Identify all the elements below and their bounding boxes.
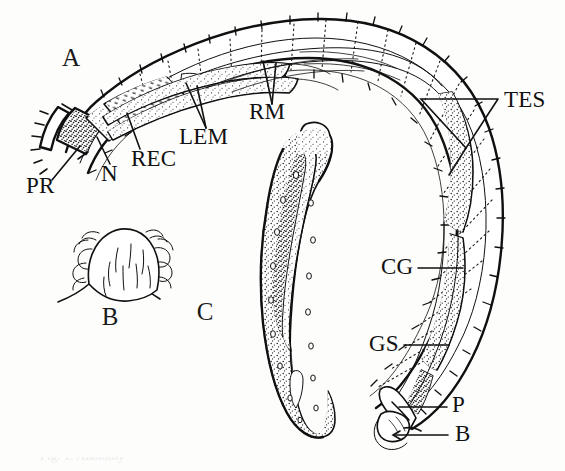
anatomical-illustration: A B C PR N REC LEM RM TES CG GS P B	[0, 0, 565, 471]
label-b: B	[455, 421, 471, 446]
clipped-caption-strip: Fig. 1. Anatomy	[0, 457, 565, 471]
panel-c-drawing	[255, 118, 345, 445]
label-tes: TES	[504, 87, 546, 112]
label-lem: LEM	[179, 124, 228, 149]
label-gs: GS	[369, 331, 399, 356]
label-rm: RM	[249, 99, 285, 124]
panel-label-b: B	[102, 303, 119, 330]
panel-label-a: A	[62, 44, 80, 71]
figure-container: A B C PR N REC LEM RM TES CG GS P B Fig.…	[0, 0, 565, 471]
label-cg: CG	[381, 254, 413, 279]
panel-label-c: C	[197, 298, 214, 325]
clipped-caption-text: Fig. 1. Anatomy	[40, 457, 125, 464]
panel-b-drawing	[58, 229, 173, 302]
label-pr: PR	[26, 173, 55, 198]
label-p: P	[452, 392, 465, 417]
label-n: N	[101, 161, 118, 186]
label-rec: REC	[131, 146, 176, 171]
